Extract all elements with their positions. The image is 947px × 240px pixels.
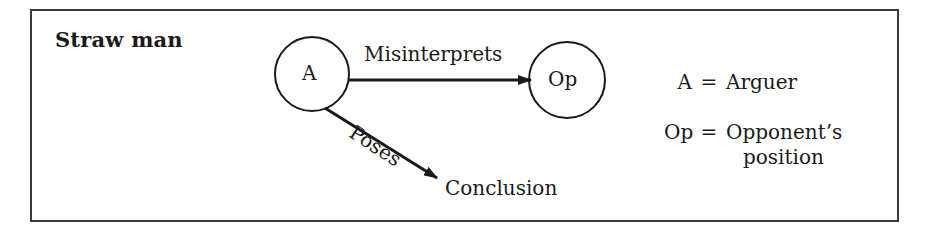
legend-value: Arguer <box>726 70 797 94</box>
node-conclusion-label: Conclusion <box>445 176 557 200</box>
legend-key: Op <box>664 120 692 144</box>
legend-row-opponent-line2: position <box>743 145 824 169</box>
legend-row-opponent: Op=Opponent’s <box>664 120 842 144</box>
legend-equals: = <box>692 70 726 94</box>
legend-value: Opponent’s <box>726 120 842 144</box>
node-opponent-label: Op <box>548 67 577 91</box>
legend-equals: = <box>692 120 726 144</box>
legend-key: A <box>664 70 692 94</box>
node-arguer-label: A <box>302 61 316 85</box>
legend-value-continued: position <box>743 145 824 169</box>
edge-misinterprets-label: Misinterprets <box>364 42 502 66</box>
legend-row-arguer: A=Arguer <box>664 70 797 94</box>
